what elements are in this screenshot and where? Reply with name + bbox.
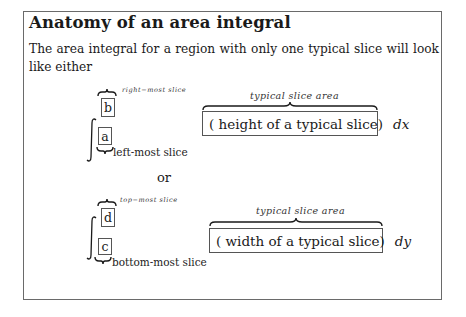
lower-limit: a <box>101 129 108 144</box>
integrand-annotation: typical slice area <box>250 90 339 101</box>
overbrace-icon <box>209 217 383 227</box>
integrand-text: ( height of a typical slice) <box>209 116 383 132</box>
section-title: Anatomy of an area integral <box>29 13 291 32</box>
integrand-box: ( height of a typical slice) dx <box>202 111 378 136</box>
intro-paragraph: The area integral for a region with only… <box>29 40 439 76</box>
lower-annotation: left-most slice <box>113 146 188 158</box>
lower-limit: c <box>101 239 108 254</box>
overbrace-icon <box>97 199 117 207</box>
upper-limit: b <box>104 100 112 115</box>
differential: dx <box>393 116 409 132</box>
lower-limit-box: c <box>98 238 112 255</box>
differential: dy <box>395 233 411 249</box>
upper-limit: d <box>104 210 112 225</box>
underbrace-icon <box>94 256 112 264</box>
integral-sign-icon <box>86 216 98 260</box>
overbrace-icon <box>97 89 117 97</box>
upper-annotation: top−most slice <box>120 196 178 204</box>
lower-limit-box: a <box>98 127 112 145</box>
or-separator: or <box>157 170 171 185</box>
upper-limit-box: d <box>101 208 115 227</box>
integrand-box: ( width of a typical slice) dy <box>209 228 383 253</box>
integrand-annotation: typical slice area <box>256 205 345 216</box>
integral-sign-icon <box>86 118 98 162</box>
integrand-text: ( width of a typical slice) <box>216 233 385 249</box>
underbrace-icon <box>96 146 114 154</box>
overbrace-icon <box>202 101 378 111</box>
lower-annotation: bottom-most slice <box>112 256 207 268</box>
upper-limit-box: b <box>101 98 115 117</box>
upper-annotation: right−most slice <box>122 86 186 94</box>
